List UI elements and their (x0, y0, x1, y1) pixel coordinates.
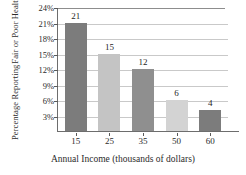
bar-value-label: 4 (208, 98, 213, 108)
y-axis-tick-mark (54, 8, 58, 9)
x-axis-tick-label: 25 (105, 136, 114, 146)
y-axis-tick-label: 6% (43, 96, 54, 106)
gridline (58, 8, 228, 9)
y-axis-tick-mark (54, 70, 58, 71)
y-axis-tick-label: 21% (38, 19, 54, 29)
x-axis-tick-label: 15 (71, 136, 80, 146)
x-axis-tick-label: 35 (139, 136, 148, 146)
bar (199, 110, 221, 131)
y-axis-tick-label: 15% (38, 50, 54, 60)
y-axis-tick-label: 3% (43, 112, 54, 122)
x-axis-tick-label: 50 (172, 136, 181, 146)
y-axis-tick-mark (54, 101, 58, 102)
y-axis-tick-label: 9% (43, 81, 54, 91)
y-axis-tick-label: 24% (38, 3, 54, 13)
bar-value-label: 6 (174, 88, 179, 98)
bar (98, 54, 120, 132)
bar-value-label: 21 (71, 11, 80, 21)
y-axis-tick-mark (54, 39, 58, 40)
y-axis-tick-labels: 3%6%9%12%15%18%21%24% (26, 8, 54, 132)
y-axis-title-line-2: Fair or Poor Health (10, 0, 20, 64)
bar (166, 100, 188, 131)
y-axis-title-line-1: Percentage Reporting (10, 65, 20, 140)
bar (65, 23, 87, 132)
bar (132, 69, 154, 131)
y-axis-tick-mark (54, 24, 58, 25)
x-axis-title: Annual Income (thousands of dollars) (0, 154, 246, 164)
x-axis-tick-labels: 1525355060 (57, 133, 239, 149)
x-axis-line (57, 131, 239, 132)
y-axis-tick-mark (54, 86, 58, 87)
plot-area: 21151264 (57, 8, 239, 132)
y-axis-tick-label: 18% (38, 34, 54, 44)
bar-chart: Percentage Reporting Fair or Poor Health… (0, 0, 246, 175)
y-axis-tick-label: 12% (38, 65, 54, 75)
x-axis-tick-label: 60 (206, 136, 215, 146)
y-axis-tick-mark (54, 117, 58, 118)
bar-value-label: 15 (105, 42, 114, 52)
bar-value-label: 12 (139, 57, 148, 67)
y-axis-tick-mark (54, 55, 58, 56)
